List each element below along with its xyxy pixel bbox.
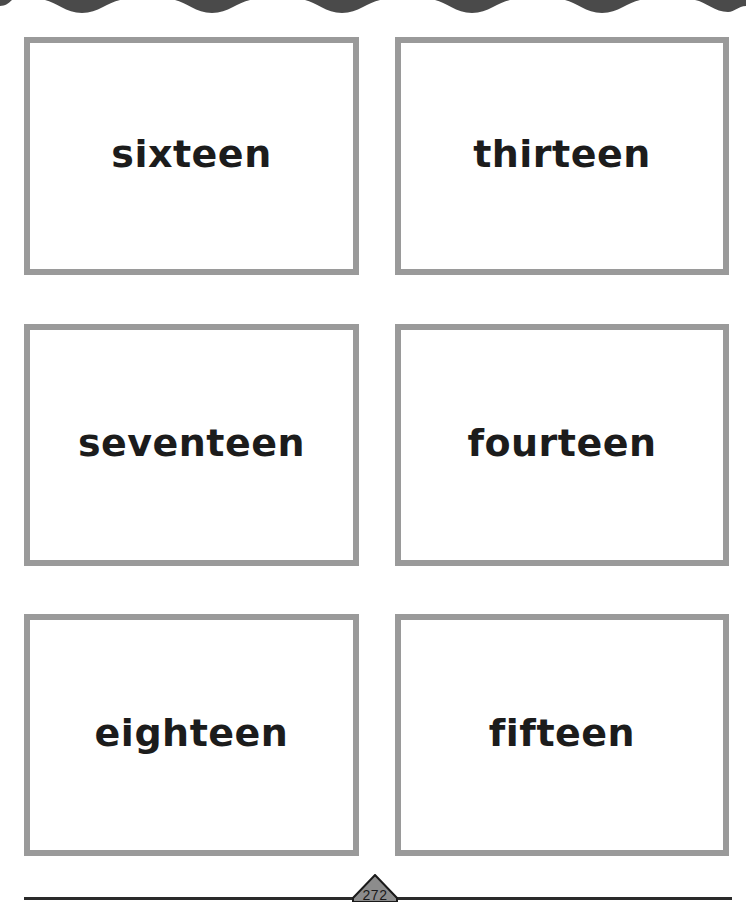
flash-card-thirteen: thirteen bbox=[395, 37, 729, 275]
card-word: thirteen bbox=[473, 132, 651, 176]
flash-card-fourteen: fourteen bbox=[395, 324, 729, 566]
card-word: fifteen bbox=[489, 711, 635, 755]
flash-card-eighteen: eighteen bbox=[24, 614, 359, 856]
flash-card-sixteen: sixteen bbox=[24, 37, 359, 275]
card-word: seventeen bbox=[78, 421, 305, 465]
flash-card-seventeen: seventeen bbox=[24, 324, 359, 566]
card-word: sixteen bbox=[111, 132, 271, 176]
page-number: 272 bbox=[350, 888, 400, 902]
card-word: eighteen bbox=[95, 711, 289, 755]
card-word: fourteen bbox=[467, 421, 656, 465]
flash-card-fifteen: fifteen bbox=[395, 614, 729, 856]
scalloped-wave-border-icon bbox=[0, 0, 746, 16]
